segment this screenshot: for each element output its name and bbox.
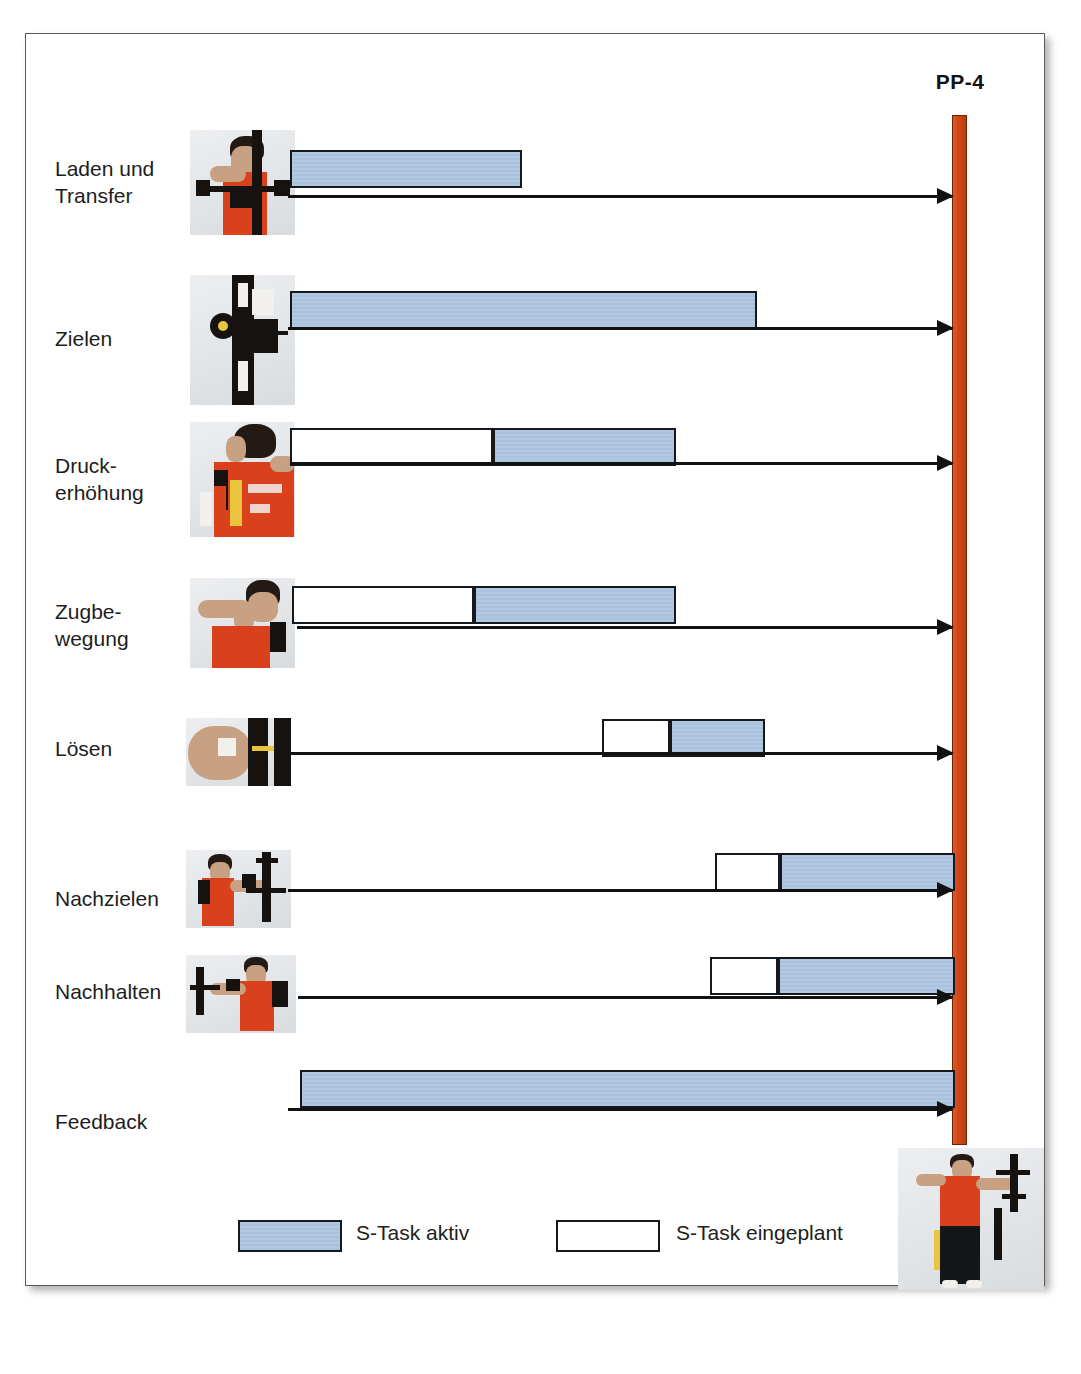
archer-follow-aim-photo bbox=[186, 850, 291, 928]
arrow-zugbewegung bbox=[297, 626, 952, 629]
bar-active-zielen bbox=[290, 291, 757, 329]
bow-sight-aiming-photo bbox=[190, 275, 295, 405]
arrow-laden-und-transfer bbox=[288, 195, 952, 198]
legend-label-active: S-Task aktiv bbox=[356, 1221, 469, 1245]
bar-planned-nachhalten bbox=[710, 957, 778, 995]
task-label-loesen: Lösen bbox=[55, 735, 205, 762]
arrow-loesen bbox=[287, 752, 952, 755]
task-label-nachhalten: Nachhalten bbox=[55, 978, 205, 1005]
task-label-nachzielen: Nachzielen bbox=[55, 885, 205, 912]
archer-back-pressure-photo bbox=[190, 422, 295, 537]
task-label-zielen: Zielen bbox=[55, 325, 205, 352]
release-hand-photo bbox=[186, 718, 291, 786]
bar-planned-druckerhoehung bbox=[290, 428, 493, 466]
legend: S-Task aktiv S-Task eingeplant bbox=[0, 1220, 1081, 1266]
bar-active-laden-und-transfer bbox=[290, 150, 522, 188]
task-label-laden-und-transfer: Laden undTransfer bbox=[55, 155, 205, 209]
task-label-druckerhoehung: Druck-erhöhung bbox=[55, 452, 205, 506]
archer-follow-through-photo bbox=[186, 955, 296, 1033]
bar-active-nachhalten bbox=[778, 957, 955, 995]
legend-swatch-planned bbox=[556, 1220, 660, 1252]
arrow-druckerhoehung bbox=[290, 462, 952, 465]
arrow-nachzielen bbox=[288, 889, 952, 892]
legend-swatch-active bbox=[238, 1220, 342, 1252]
archer-draw-movement-photo bbox=[190, 578, 295, 668]
task-label-feedback: Feedback bbox=[55, 1108, 205, 1135]
milestone-label: PP-4 bbox=[880, 70, 1040, 94]
bar-active-feedback bbox=[300, 1070, 955, 1108]
arrow-feedback bbox=[288, 1108, 952, 1111]
arrow-zielen bbox=[288, 327, 952, 330]
bar-planned-nachzielen bbox=[715, 853, 780, 891]
bar-active-druckerhoehung bbox=[493, 428, 676, 466]
bar-planned-zugbewegung bbox=[292, 586, 474, 624]
archer-full-body-photo bbox=[898, 1148, 1044, 1290]
legend-label-planned: S-Task eingeplant bbox=[676, 1221, 843, 1245]
bar-active-zugbewegung bbox=[474, 586, 676, 624]
arrow-nachhalten bbox=[298, 996, 952, 999]
task-label-zugbewegung: Zugbe-wegung bbox=[55, 598, 205, 652]
archer-loading-transfer-photo bbox=[190, 130, 295, 235]
bar-active-nachzielen bbox=[780, 853, 955, 891]
